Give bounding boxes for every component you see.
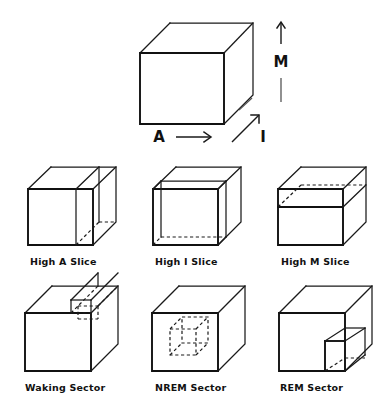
panel-rem-sector-cube — [279, 286, 372, 371]
panel-high-m-slice-cube — [278, 167, 366, 245]
panel-nrem-sector-cube — [152, 286, 245, 371]
axis-label-m: M — [274, 53, 289, 71]
axis-label-a: A — [153, 128, 165, 146]
label-waking-sector: Waking Sector — [25, 382, 105, 393]
label-nrem-sector: NREM Sector — [155, 382, 226, 393]
panel-waking-sector-cube — [25, 273, 118, 371]
main-cube — [140, 23, 253, 124]
axis-label-i: I — [260, 128, 266, 146]
panel-high-a-slice-cube — [28, 160, 116, 245]
panel-high-i-slice-cube — [153, 167, 241, 245]
cube-diagram-svg: M A I — [0, 0, 386, 404]
label-high-a-slice: High A Slice — [30, 256, 97, 267]
label-rem-sector: REM Sector — [280, 382, 343, 393]
label-high-m-slice: High M Slice — [281, 256, 350, 267]
axis-a — [176, 132, 211, 142]
label-high-i-slice: High I Slice — [155, 256, 218, 267]
figure-root: M A I — [0, 0, 386, 404]
